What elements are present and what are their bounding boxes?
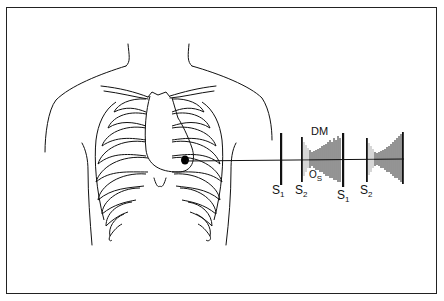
left-shoulder-outline bbox=[45, 66, 126, 152]
s2-first-spike bbox=[301, 137, 303, 182]
xiphoid bbox=[154, 178, 166, 187]
s1-first-label: S1 bbox=[272, 184, 284, 199]
s1-first-spike bbox=[280, 133, 282, 185]
s1-second-label: S1 bbox=[337, 189, 349, 204]
diastolic-murmur-second bbox=[375, 134, 401, 182]
auscultation-point-marker bbox=[181, 156, 189, 165]
diastolic-murmur-label: DM bbox=[311, 126, 328, 137]
chest-diagram bbox=[0, 0, 444, 301]
opening-snap-label: OS bbox=[309, 170, 322, 183]
s2-first-label: S2 bbox=[295, 184, 307, 199]
left-flank-outline bbox=[82, 143, 92, 245]
s2-second-label: S2 bbox=[360, 184, 372, 199]
neck-right-outline bbox=[188, 44, 192, 66]
right-flank-outline bbox=[226, 143, 236, 245]
left-rib-cage bbox=[95, 99, 148, 241]
s2-second-spike bbox=[366, 138, 368, 182]
sternum-top bbox=[148, 92, 170, 97]
s1-second-spike bbox=[342, 133, 344, 187]
neck-left-outline bbox=[126, 44, 129, 66]
